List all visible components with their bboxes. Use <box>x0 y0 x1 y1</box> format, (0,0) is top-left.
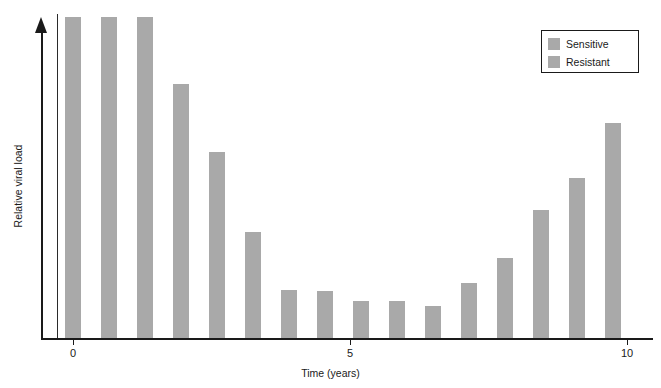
bar <box>533 210 549 338</box>
legend-label-sensitive: Sensitive <box>566 38 609 50</box>
legend-label-resistant: Resistant <box>566 56 610 68</box>
bar <box>389 301 405 338</box>
legend-item-sensitive: Sensitive <box>548 35 638 52</box>
x-axis-tick-label: 0 <box>70 347 76 359</box>
legend-item-resistant: Resistant <box>548 53 638 70</box>
bar <box>569 178 585 339</box>
x-axis-tick <box>627 338 628 345</box>
bar <box>461 283 477 338</box>
x-axis-tick-label: 5 <box>347 347 353 359</box>
bar <box>101 17 117 338</box>
x-axis-line <box>41 338 653 340</box>
bar <box>353 301 369 338</box>
y-axis-title: Relative viral load <box>12 106 24 266</box>
bar <box>209 152 225 338</box>
legend-swatch-resistant <box>548 56 560 68</box>
x-axis-tick <box>350 338 351 345</box>
bar <box>605 123 621 338</box>
x-axis-tick-label: 10 <box>621 347 633 359</box>
plot-left-rule <box>57 14 58 339</box>
bar <box>245 232 261 338</box>
bar <box>425 306 441 338</box>
bar <box>137 17 153 338</box>
bar <box>497 258 513 338</box>
y-axis-arrow-line <box>41 30 43 338</box>
bar <box>281 290 297 338</box>
legend: Sensitive Resistant <box>541 30 639 73</box>
x-axis-title: Time (years) <box>0 367 661 379</box>
bar <box>65 17 81 338</box>
x-axis-tick <box>73 338 74 345</box>
legend-swatch-sensitive <box>548 38 560 50</box>
bar <box>317 291 333 338</box>
chart-figure: 0510 Time (years) Relative viral load Se… <box>0 0 661 388</box>
bar <box>173 84 189 338</box>
